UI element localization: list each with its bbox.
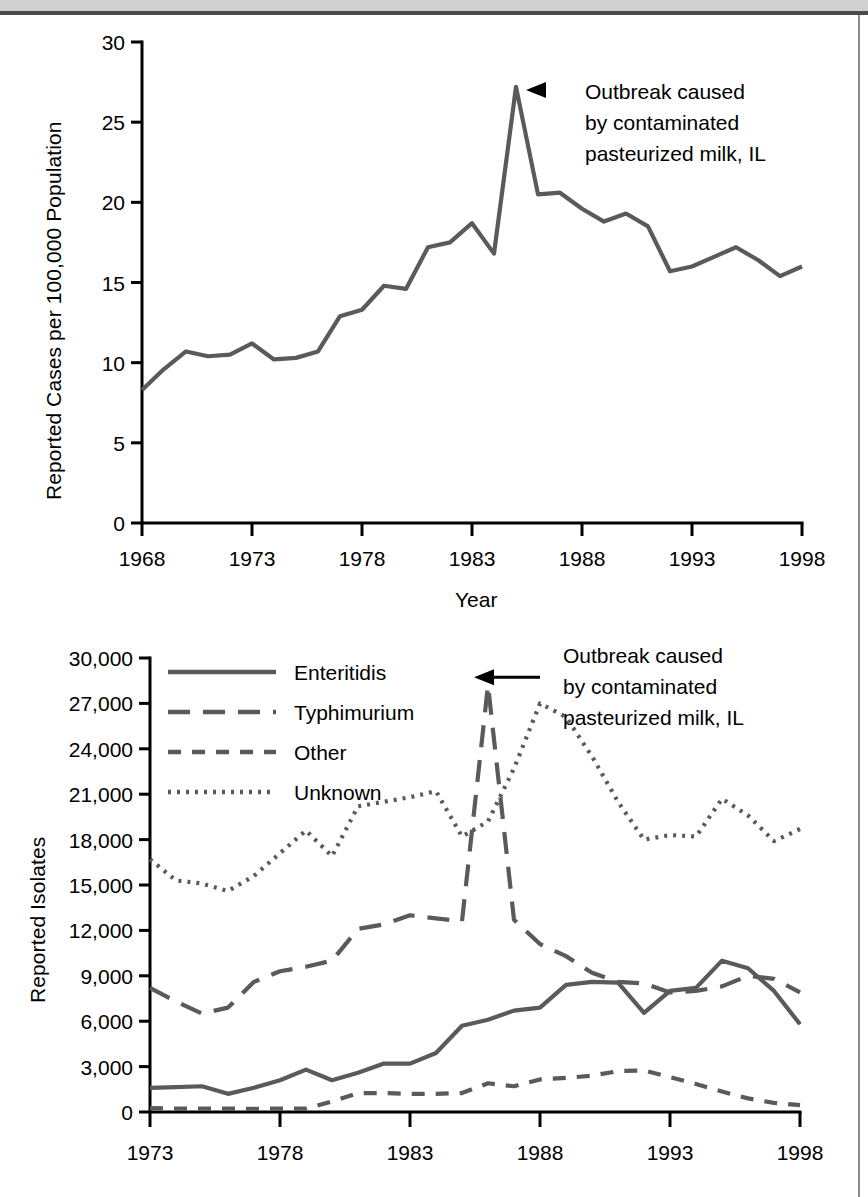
- top-chart-y-tick-label: 15: [102, 272, 125, 295]
- top-chart-y-tick-label: 5: [113, 432, 125, 455]
- bottom-chart-x-tick-label: 1988: [517, 1141, 564, 1164]
- bottom-chart-y-tick-label: 30,000: [69, 647, 133, 670]
- bottom-chart-annotation-line: Outbreak caused: [563, 644, 723, 667]
- top-chart-annotation-line: pasteurized milk, IL: [585, 142, 766, 165]
- bottom-chart-canvas: 03,0006,0009,00012,00015,00018,00021,000…: [0, 620, 860, 1197]
- bottom-chart-y-tick-label: 0: [121, 1101, 133, 1124]
- bottom-chart-x-tick-label: 1993: [647, 1141, 694, 1164]
- bottom-chart-y-tick-label: 24,000: [69, 738, 133, 761]
- top-chart-y-tick-label: 25: [102, 111, 125, 134]
- page-header-band: [0, 0, 868, 11]
- bottom-chart-y-tick-label: 21,000: [69, 783, 133, 806]
- top-chart-canvas: 0510152025301968197319781983198819931998…: [0, 15, 860, 620]
- top-chart-x-tick-label: 1983: [449, 547, 496, 570]
- top-chart-y-axis-title: Reported Cases per 100,000 Population: [42, 122, 66, 500]
- chart-salmonella-isolates-by-serotype: 03,0006,0009,00012,00015,00018,00021,000…: [0, 620, 860, 1197]
- bottom-chart-y-tick-label: 3,000: [80, 1056, 133, 1079]
- top-chart-y-tick-label: 10: [102, 352, 125, 375]
- top-chart-x-tick-label: 1968: [119, 547, 166, 570]
- bottom-chart-y-axis-title: Reported Isolates: [26, 837, 50, 1003]
- bottom-chart-series-typhimurium: [150, 685, 800, 1013]
- top-chart-x-tick-label: 1978: [339, 547, 386, 570]
- bottom-chart-y-tick-label: 27,000: [69, 692, 133, 715]
- top-chart-x-tick-label: 1993: [669, 547, 716, 570]
- legend-label-typhimurium[interactable]: Typhimurium: [294, 701, 414, 724]
- top-chart-y-tick-label: 0: [113, 512, 125, 535]
- top-chart-x-tick-label: 1998: [779, 547, 826, 570]
- bottom-chart-x-tick-label: 1973: [127, 1141, 174, 1164]
- bottom-chart-y-tick-label: 9,000: [80, 965, 133, 988]
- bottom-chart-y-tick-label: 6,000: [80, 1010, 133, 1033]
- legend-label-other[interactable]: Other: [294, 741, 347, 764]
- bottom-chart-annotation-line: by contaminated: [563, 675, 717, 698]
- top-chart-annotation-arrow-head: [526, 82, 546, 98]
- legend-label-unknown[interactable]: Unknown: [294, 781, 382, 804]
- legend-label-enteritidis[interactable]: Enteritidis: [294, 661, 386, 684]
- bottom-chart-x-tick-label: 1978: [257, 1141, 304, 1164]
- bottom-chart-annotation-arrow-head: [474, 669, 494, 685]
- top-chart-annotation-line: Outbreak caused: [585, 80, 745, 103]
- bottom-chart-y-tick-label: 15,000: [69, 874, 133, 897]
- bottom-chart-x-tick-label: 1998: [777, 1141, 824, 1164]
- top-chart-y-tick-label: 30: [102, 31, 125, 54]
- top-chart-x-axis-title: Year: [455, 588, 497, 612]
- top-chart-y-tick-label: 20: [102, 191, 125, 214]
- chart-salmonellosis-incidence: 0510152025301968197319781983198819931998…: [0, 15, 860, 620]
- bottom-chart-series-enteritidis: [150, 961, 800, 1094]
- top-chart-annotation-line: by contaminated: [585, 111, 739, 134]
- figure-page: 0510152025301968197319781983198819931998…: [0, 0, 868, 1197]
- top-chart-x-tick-label: 1973: [229, 547, 276, 570]
- bottom-chart-y-tick-label: 12,000: [69, 919, 133, 942]
- bottom-chart-x-tick-label: 1983: [387, 1141, 434, 1164]
- top-chart-x-tick-label: 1988: [559, 547, 606, 570]
- bottom-chart-y-tick-label: 18,000: [69, 829, 133, 852]
- bottom-chart-annotation-line: pasteurized milk, IL: [563, 706, 744, 729]
